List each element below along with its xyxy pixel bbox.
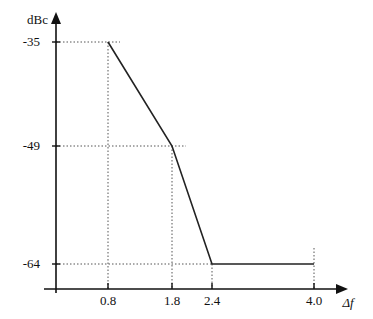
- ticks: [52, 42, 314, 289]
- y-axis-arrow-icon: [51, 12, 61, 24]
- mask-line: [108, 42, 314, 264]
- guide-lines: [56, 42, 314, 289]
- x-tick-label: 2.4: [204, 293, 221, 308]
- y-tick-label: -35: [23, 34, 40, 49]
- x-tick-label: 4.0: [306, 293, 322, 308]
- x-tick-label: 0.8: [100, 293, 116, 308]
- y-axis-title: dBc: [27, 12, 48, 27]
- x-tick-label: 1.8: [164, 293, 180, 308]
- x-axis-arrow-icon: [336, 284, 348, 294]
- y-tick-label: -49: [23, 138, 40, 153]
- y-tick-label: -64: [23, 256, 41, 271]
- spectral-mask-chart: dBc -35 -49 -64 0.8 1.8 2.4 4.0 Δf: [0, 0, 373, 319]
- x-axis-title: Δf: [341, 295, 356, 310]
